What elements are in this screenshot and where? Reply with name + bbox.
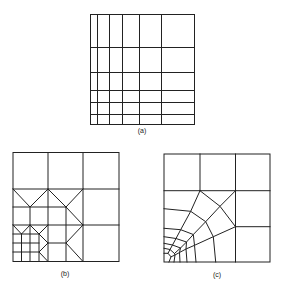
panel-c-label: (c) [213,271,221,278]
panel-a-mesh [91,15,195,125]
panel-a-label: (a) [138,127,147,134]
panel-b-label: (b) [61,270,70,277]
panel-c-mesh [164,154,270,262]
mesh-diagram [0,0,283,288]
figure-canvas: (a) (b) (c) [0,0,283,288]
panel-b-mesh [13,153,119,262]
